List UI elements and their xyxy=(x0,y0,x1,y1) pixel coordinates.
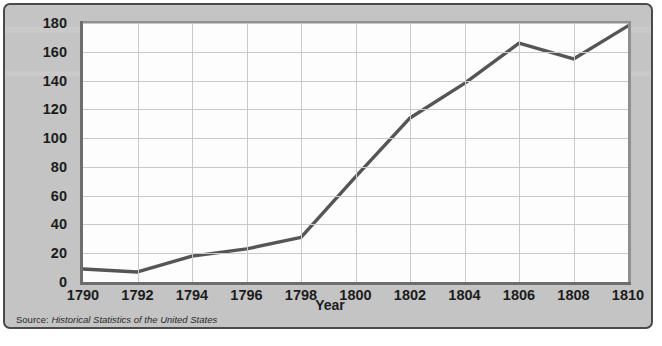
y-axis-tick-label: 180 xyxy=(33,16,67,31)
gridline-vertical xyxy=(410,23,411,282)
plot-border-bottom xyxy=(80,282,631,285)
x-axis-label: Year xyxy=(5,297,655,313)
chart-figure: Bales (in thousands) 0204060801001201401… xyxy=(0,0,662,346)
plot-border-right xyxy=(628,21,631,284)
gridline-vertical xyxy=(247,23,248,282)
gridline-vertical xyxy=(192,23,193,282)
y-axis-tick-label: 120 xyxy=(33,102,67,117)
gridline-vertical xyxy=(465,23,466,282)
gridline-vertical xyxy=(138,23,139,282)
source-prefix: Source: xyxy=(16,314,49,325)
y-axis-tick-label: 140 xyxy=(33,74,67,89)
gridline-vertical xyxy=(519,23,520,282)
y-axis-tick-label: 60 xyxy=(33,189,67,204)
y-axis-tick-label: 40 xyxy=(33,217,67,232)
y-axis-tick-label: 160 xyxy=(33,45,67,60)
chart-panel: Bales (in thousands) 0204060801001201401… xyxy=(3,3,653,329)
y-axis-tick-label: 100 xyxy=(33,131,67,146)
y-axis-tick-label: 20 xyxy=(33,246,67,261)
gridline-vertical xyxy=(356,23,357,282)
y-axis-tick-label: 80 xyxy=(33,160,67,175)
plot-area xyxy=(83,23,628,282)
source-note: Source: Historical Statistics of the Uni… xyxy=(16,314,217,325)
gridline-vertical xyxy=(301,23,302,282)
source-title: Historical Statistics of the United Stat… xyxy=(51,314,217,325)
gridline-vertical xyxy=(574,23,575,282)
